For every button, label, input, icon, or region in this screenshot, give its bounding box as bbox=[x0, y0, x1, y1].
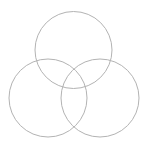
circle-bottom-right bbox=[61, 59, 139, 137]
venn-diagram bbox=[0, 0, 147, 146]
circle-top bbox=[35, 12, 112, 89]
circle-bottom-left bbox=[9, 59, 87, 137]
